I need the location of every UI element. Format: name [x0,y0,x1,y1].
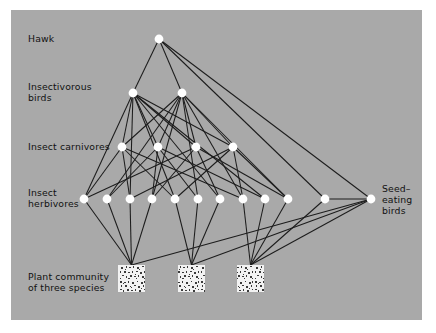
node-insectivorous-bird[interactable] [129,89,138,98]
edge-carnivores-to-herbivores [84,147,122,199]
edge-herbivores-to-plants [107,199,132,265]
node-insect-herbivore[interactable] [321,195,330,204]
node-insect-herbivore[interactable] [216,195,225,204]
label-plant-community-line1: Plant community [28,271,109,282]
edge-hawk-to-others [159,39,325,199]
node-insect-carnivore[interactable] [229,143,238,152]
node-insect-herbivore[interactable] [103,195,112,204]
label-insect-carnivores: Insect carnivores [28,141,110,152]
edge-herbivores-to-plants [251,199,326,265]
node-seed-eating-bird[interactable] [367,195,376,204]
edge-plants-to-seed-birds [132,199,372,265]
label-seed-eating-birds-line1: Seed– [382,183,411,194]
node-insect-herbivore[interactable] [284,195,293,204]
edge-herbivores-to-plants [175,199,192,265]
label-seed-eating-birds-line2: eating [382,194,412,205]
plant-patch-layer [118,265,264,292]
edge-herbivores-to-plants [192,199,199,265]
label-insect-herbivores-line2: herbivores [28,198,79,209]
diagram-panel: Hawk Insectivorous birds Insect carnivor… [11,10,422,320]
edge-plants-to-seed-birds [251,199,372,265]
node-insect-herbivore[interactable] [261,195,270,204]
node-insect-herbivore[interactable] [171,195,180,204]
edge-layer [84,39,371,265]
node-insect-carnivore[interactable] [192,143,201,152]
node-insect-herbivore[interactable] [126,195,135,204]
node-insect-herbivore[interactable] [80,195,89,204]
edge-carnivores-to-herbivores [122,147,130,199]
edge-birds-to-herbivores [130,93,133,199]
label-insectivorous-birds-line2: birds [28,92,52,103]
label-hawk: Hawk [28,33,54,44]
plant-patch[interactable] [178,265,205,292]
node-hawk[interactable] [155,35,164,44]
plant-patch[interactable] [237,265,264,292]
plant-patch[interactable] [118,265,145,292]
food-web-figure: Hawk Insectivorous birds Insect carnivor… [0,0,436,333]
edge-herbivores-to-plants [130,199,132,265]
label-plant-community-line2: of three species [28,282,105,293]
edge-hawk-to-birds [133,39,159,93]
edge-carnivores-to-herbivores [107,147,158,199]
node-insect-carnivore[interactable] [154,143,163,152]
node-insectivorous-bird[interactable] [178,89,187,98]
node-insect-herbivore[interactable] [194,195,203,204]
label-insectivorous-birds-line1: Insectivorous [28,81,92,92]
node-insect-herbivore[interactable] [239,195,248,204]
edge-herbivores-to-plants [84,199,132,265]
node-insect-carnivore[interactable] [118,143,127,152]
edge-herbivores-to-plants [132,199,153,265]
edge-carnivores-to-herbivores [130,147,233,199]
node-layer [80,35,376,204]
edge-hawk-to-others [159,39,371,199]
edge-herbivores-to-plants [192,199,221,265]
label-insect-herbivores-line1: Insect [28,187,57,198]
label-seed-eating-birds-line3: birds [382,205,406,216]
node-insect-herbivore[interactable] [148,195,157,204]
edge-plants-to-seed-birds [192,199,372,265]
edge-carnivores-to-herbivores [152,147,158,199]
